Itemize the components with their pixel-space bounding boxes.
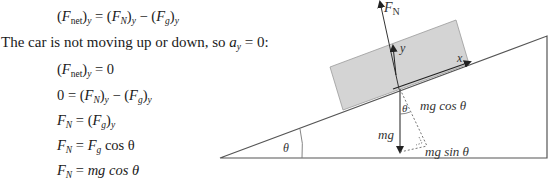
y-axis-label: y	[399, 41, 406, 55]
normal-force-label: FN	[383, 0, 400, 17]
weight-label: mg	[378, 127, 394, 142]
parallel-component-label: mg sin θ	[425, 144, 470, 159]
perp-component-label: mg cos θ	[420, 98, 467, 113]
component-angle-label: θ	[402, 102, 408, 114]
x-axis-label: x	[456, 51, 463, 65]
incline-angle-arc	[300, 129, 303, 158]
incline-angle-label: θ	[283, 141, 289, 155]
right-angle-marker	[416, 137, 422, 145]
incline-free-body-diagram: FN y x θ θ mg mg cos θ mg sin θ	[0, 0, 555, 178]
parallel-component-line	[400, 146, 427, 152]
